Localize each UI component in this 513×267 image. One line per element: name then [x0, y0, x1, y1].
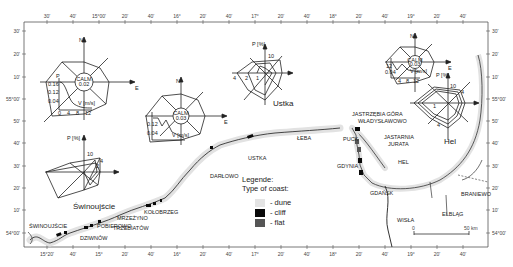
svg-text:40': 40'	[492, 140, 499, 146]
svg-text:19°: 19°	[407, 13, 415, 19]
svg-text:V [m/s]: V [m/s]	[172, 132, 190, 138]
svg-text:54°00': 54°00'	[6, 230, 20, 236]
svg-text:40': 40'	[460, 13, 467, 19]
svg-text:4: 4	[437, 122, 440, 128]
svg-text:12: 12	[85, 110, 91, 116]
svg-text:MRZEŻYNO: MRZEŻYNO	[117, 215, 149, 221]
svg-text:20': 20'	[492, 51, 499, 57]
svg-text:8: 8	[76, 110, 79, 116]
svg-text:ŚWINOUJŚCIE: ŚWINOUJŚCIE	[29, 222, 68, 229]
svg-text:KOŁOBRZEG: KOŁOBRZEG	[144, 209, 178, 215]
svg-text:P [%]: P [%]	[252, 41, 266, 47]
svg-text:30': 30'	[492, 28, 499, 34]
svg-text:E: E	[448, 65, 452, 71]
svg-text:15°20': 15°20'	[40, 251, 54, 257]
svg-text:16°: 16°	[173, 251, 181, 257]
svg-text:50': 50'	[13, 118, 20, 124]
svg-text:- dune: - dune	[270, 198, 291, 207]
svg-text:50 km: 50 km	[464, 225, 478, 231]
svg-text:8: 8	[406, 78, 409, 84]
svg-text:- flat: - flat	[270, 218, 286, 227]
svg-text:GDAŃSK: GDAŃSK	[370, 190, 394, 196]
svg-text:40': 40'	[70, 251, 77, 257]
svg-text:20': 20'	[356, 13, 363, 19]
svg-text:40': 40'	[382, 251, 389, 257]
svg-text:20': 20'	[13, 51, 20, 57]
svg-text:4: 4	[100, 158, 103, 164]
svg-text:19°: 19°	[407, 251, 415, 257]
svg-text:Świnoujście: Świnoujście	[73, 202, 116, 211]
svg-text:20': 20'	[13, 185, 20, 191]
svg-text:0.12: 0.12	[147, 121, 158, 127]
svg-text:0.03: 0.03	[176, 115, 187, 121]
svg-text:40': 40'	[13, 140, 20, 146]
svg-text:20': 20'	[200, 251, 207, 257]
svg-text:10: 10	[268, 53, 274, 59]
svg-text:30': 30'	[13, 28, 20, 34]
svg-text:20': 20'	[434, 251, 441, 257]
svg-text:USTKA: USTKA	[248, 155, 267, 161]
svg-text:20': 20'	[278, 251, 285, 257]
svg-text:20': 20'	[492, 185, 499, 191]
svg-text:4: 4	[233, 75, 236, 81]
svg-text:40': 40'	[382, 13, 389, 19]
svg-text:10': 10'	[492, 74, 499, 80]
svg-text:10': 10'	[492, 207, 499, 213]
svg-text:JURATA: JURATA	[388, 141, 409, 147]
svg-text:WŁADYSŁAWOWO: WŁADYSŁAWOWO	[358, 118, 407, 124]
svg-text:20': 20'	[200, 13, 207, 19]
svg-text:20': 20'	[122, 13, 129, 19]
svg-text:12: 12	[413, 78, 419, 84]
svg-text:10: 10	[450, 83, 456, 89]
svg-text:40': 40'	[70, 13, 77, 19]
svg-text:0.04: 0.04	[385, 69, 396, 75]
coast-map: 30' 40' 15°00' 20' 40' 16° 20' 40' 17° 2…	[0, 0, 513, 267]
legend-swatch-flat	[255, 219, 265, 227]
svg-text:18°: 18°	[329, 251, 337, 257]
svg-text:10': 10'	[13, 207, 20, 213]
svg-text:30': 30'	[44, 13, 51, 19]
svg-text:10': 10'	[13, 74, 20, 80]
svg-text:P: P	[56, 73, 60, 79]
svg-text:20': 20'	[278, 13, 285, 19]
svg-text:P [%]: P [%]	[67, 135, 81, 141]
svg-text:BRANIEWO: BRANIEWO	[461, 191, 492, 197]
svg-text:0.12: 0.12	[48, 89, 59, 95]
svg-text:N: N	[79, 37, 83, 43]
svg-text:17°: 17°	[251, 13, 259, 19]
svg-text:4: 4	[398, 78, 401, 84]
svg-text:20': 20'	[356, 251, 363, 257]
svg-text:P [%]: P [%]	[436, 72, 450, 78]
svg-text:0.02: 0.02	[79, 81, 90, 87]
svg-text:Hel: Hel	[444, 137, 456, 146]
legend-swatch-dune	[255, 199, 265, 207]
svg-text:HEL: HEL	[398, 159, 409, 165]
svg-text:N: N	[176, 78, 180, 84]
svg-text:2: 2	[96, 163, 99, 169]
svg-text:15°: 15°	[95, 251, 103, 257]
svg-text:V [m/s]: V [m/s]	[78, 100, 96, 106]
svg-text:1: 1	[256, 75, 259, 81]
svg-text:WISŁA: WISŁA	[397, 217, 414, 223]
svg-text:TRZEBIATÓW: TRZEBIATÓW	[113, 225, 149, 231]
svg-text:- cliff: - cliff	[270, 208, 287, 217]
svg-text:20': 20'	[122, 251, 129, 257]
svg-text:54°00': 54°00'	[492, 230, 506, 236]
svg-text:40': 40'	[304, 13, 311, 19]
svg-text:1: 1	[433, 103, 436, 109]
svg-text:ELBLĄG: ELBLĄG	[442, 211, 463, 217]
svg-text:0.16: 0.16	[48, 81, 59, 87]
svg-text:0: 0	[58, 110, 61, 116]
svg-text:40': 40'	[148, 251, 155, 257]
svg-text:DARŁOWO: DARŁOWO	[210, 173, 239, 179]
svg-text:Ustka: Ustka	[273, 99, 294, 108]
svg-text:15°00': 15°00'	[92, 13, 106, 19]
svg-text:JASTRZĘBIA GÓRA: JASTRZĘBIA GÓRA	[352, 111, 403, 117]
svg-text:Legende:: Legende:	[242, 175, 273, 184]
svg-text:V [m/s]: V [m/s]	[410, 68, 428, 74]
svg-text:E: E	[224, 119, 228, 125]
svg-text:2: 2	[245, 75, 248, 81]
svg-text:40': 40'	[148, 13, 155, 19]
svg-text:10: 10	[87, 151, 93, 157]
svg-text:50': 50'	[492, 118, 499, 124]
